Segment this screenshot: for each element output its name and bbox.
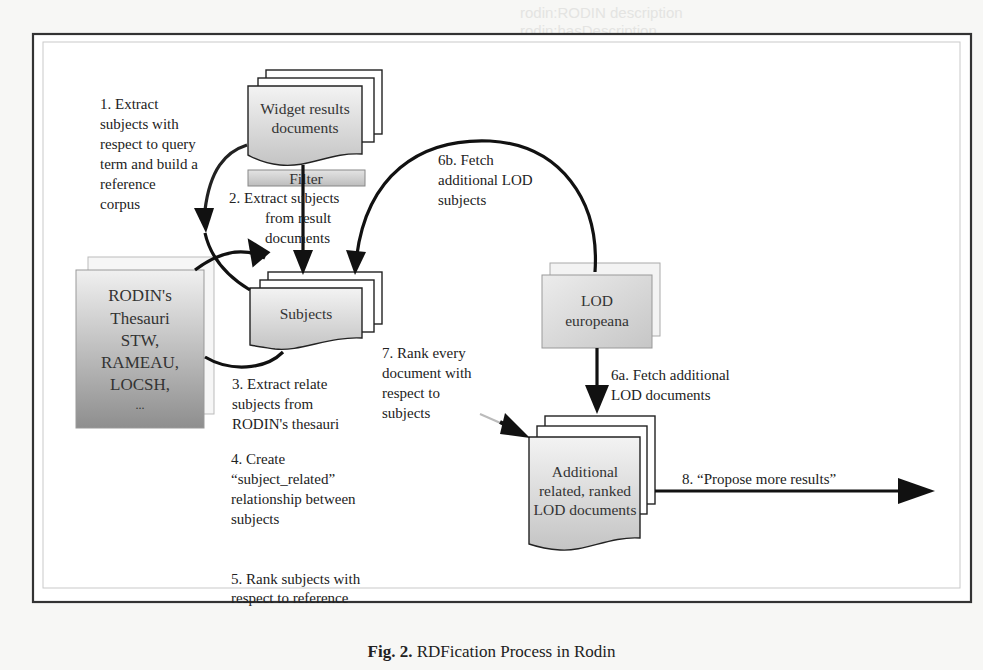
subjects-label: Subjects xyxy=(280,305,333,322)
svg-text:from result: from result xyxy=(265,210,332,226)
step5-label-cont: respect to reference corpus xyxy=(231,590,349,622)
svg-text:subjects: subjects xyxy=(231,511,279,527)
thesauri-label: RAMEAU, xyxy=(101,353,179,372)
svg-text:respect to reference: respect to reference xyxy=(231,590,349,606)
svg-text:3. Extract relate: 3. Extract relate xyxy=(232,376,328,392)
svg-text:5. Rank subjects with: 5. Rank subjects with xyxy=(231,571,361,587)
widget-results-label: documents xyxy=(271,119,338,136)
thesauri-label: Thesauri xyxy=(110,309,170,328)
svg-text:subjects: subjects xyxy=(382,405,430,421)
svg-text:respect to: respect to xyxy=(382,385,440,401)
lod-label: europeana xyxy=(565,312,629,329)
thesauri-label: LOCSH, xyxy=(110,375,170,394)
svg-text:LOD documents: LOD documents xyxy=(611,387,711,403)
widget-results-label: Widget results xyxy=(260,100,349,117)
additional-lod-documents-node: Additional related, ranked LOD documents xyxy=(529,416,655,550)
subjects-node: Subjects xyxy=(250,272,382,349)
filter-node: Filter xyxy=(248,170,365,187)
svg-text:RODIN's thesauri: RODIN's thesauri xyxy=(232,416,339,432)
svg-text:subjects: subjects xyxy=(438,192,486,208)
svg-text:documents: documents xyxy=(265,230,330,246)
svg-text:8. “Propose more results”: 8. “Propose more results” xyxy=(682,471,836,487)
thesauri-label: STW, xyxy=(121,331,160,350)
svg-text:subjects with: subjects with xyxy=(100,116,179,132)
caption-label: Fig. 2. xyxy=(368,642,413,661)
svg-text:corpus: corpus xyxy=(100,196,140,212)
additional-label: related, ranked xyxy=(539,482,631,499)
svg-text:document with: document with xyxy=(382,365,472,381)
svg-text:“subject_related”: “subject_related” xyxy=(231,471,335,487)
svg-text:respect to query: respect to query xyxy=(100,136,196,152)
thesauri-label: RODIN's xyxy=(108,286,172,305)
widget-results-documents-node: Widget results documents xyxy=(248,70,382,165)
svg-text:6a. Fetch additional: 6a. Fetch additional xyxy=(611,367,730,383)
additional-label: LOD documents xyxy=(534,501,637,518)
additional-label: Additional xyxy=(552,463,618,480)
svg-text:additional LOD: additional LOD xyxy=(438,172,533,188)
svg-text:relationship between: relationship between xyxy=(231,491,356,507)
lod-europeana-node: LOD europeana xyxy=(542,263,660,348)
svg-text:term and build a: term and build a xyxy=(100,156,198,172)
step5-label: 5. Rank subjects with respect to referen… xyxy=(231,571,361,587)
figure-caption: Fig. 2. RDFication Process in Rodin xyxy=(0,642,983,662)
svg-text:2. Extract subjects: 2. Extract subjects xyxy=(229,190,340,206)
svg-text:6b. Fetch: 6b. Fetch xyxy=(438,152,494,168)
caption-text: RDFication Process in Rodin xyxy=(417,642,616,661)
svg-text:4. Create: 4. Create xyxy=(231,451,285,467)
rdfication-diagram: Widget results documents Filter Subjects… xyxy=(0,0,983,670)
svg-text:1. Extract: 1. Extract xyxy=(100,96,159,112)
thesauri-node: RODIN's Thesauri STW, RAMEAU, LOCSH, ... xyxy=(76,257,214,428)
svg-text:reference: reference xyxy=(100,176,156,192)
svg-text:7. Rank every: 7. Rank every xyxy=(382,345,466,361)
lod-label: LOD xyxy=(581,292,613,309)
thesauri-label: ... xyxy=(136,398,145,412)
step8-label: 8. “Propose more results” xyxy=(682,471,836,487)
svg-text:subjects from: subjects from xyxy=(232,396,314,412)
filter-label: Filter xyxy=(289,170,323,187)
